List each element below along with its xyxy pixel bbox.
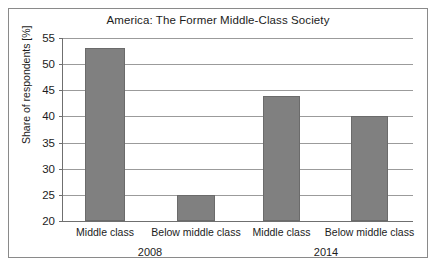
y-tick-label-50: 50 bbox=[42, 58, 55, 70]
y-tick-40 bbox=[59, 116, 63, 117]
bar-2014-below-middle-class bbox=[351, 116, 388, 221]
y-tick-35 bbox=[59, 143, 63, 144]
y-axis-title: Share of respondents [%] bbox=[20, 26, 32, 145]
x-category-label-3: Below middle class bbox=[325, 226, 414, 238]
x-group-label-2008: 2008 bbox=[138, 246, 162, 258]
y-tick-label-55: 55 bbox=[42, 32, 55, 44]
plot-area: 55 50 45 40 35 30 25 20 Middle class Bel… bbox=[63, 38, 413, 221]
gridline-55 bbox=[63, 38, 413, 39]
bar-2008-below-middle-class bbox=[177, 195, 215, 221]
y-tick-label-30: 30 bbox=[42, 163, 55, 175]
y-tick-50 bbox=[59, 64, 63, 65]
y-tick-30 bbox=[59, 169, 63, 170]
y-tick-25 bbox=[59, 195, 63, 196]
x-category-label-1: Below middle class bbox=[151, 226, 240, 238]
chart-figure: America: The Former Middle-Class Society… bbox=[8, 8, 428, 258]
y-tick-label-35: 35 bbox=[42, 137, 55, 149]
x-category-label-0: Middle class bbox=[76, 226, 134, 238]
x-group-label-2014: 2014 bbox=[314, 246, 338, 258]
x-category-label-2: Middle class bbox=[253, 226, 311, 238]
y-tick-45 bbox=[59, 90, 63, 91]
y-tick-label-45: 45 bbox=[42, 84, 55, 96]
y-tick-label-20: 20 bbox=[42, 215, 55, 227]
y-tick-label-40: 40 bbox=[42, 110, 55, 122]
bar-2008-middle-class bbox=[85, 48, 125, 221]
y-axis-line bbox=[62, 38, 63, 221]
y-tick-label-25: 25 bbox=[42, 189, 55, 201]
chart-title: America: The Former Middle-Class Society bbox=[9, 14, 427, 26]
bar-2014-middle-class bbox=[263, 96, 300, 221]
x-axis-line bbox=[62, 221, 413, 222]
y-tick-55 bbox=[59, 38, 63, 39]
y-tick-20 bbox=[59, 221, 63, 222]
